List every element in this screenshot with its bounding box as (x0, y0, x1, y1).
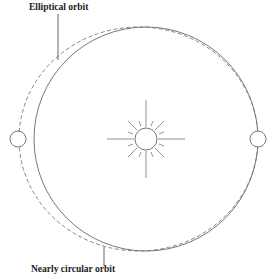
sun-icon (107, 100, 185, 178)
orbit-diagram: Elliptical orbit Nearly circular orbit (0, 0, 275, 279)
orbit-diagram-canvas (0, 0, 275, 279)
circular-orbit-label: Nearly circular orbit (31, 264, 115, 274)
elliptical-orbit-label: Elliptical orbit (29, 2, 88, 12)
left-planet-icon (10, 131, 26, 147)
right-planet-icon (250, 131, 266, 147)
